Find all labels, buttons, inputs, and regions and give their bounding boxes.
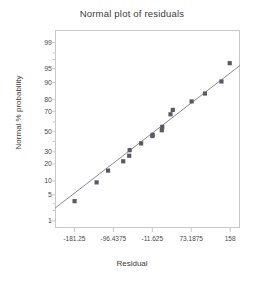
normal-probability-plot-figure: Normal plot of residuals 151020305070809… xyxy=(0,0,264,282)
y-tick-label: 50 xyxy=(34,128,52,135)
y-tick-label: 70 xyxy=(34,108,52,115)
y-tick-label: 95 xyxy=(34,65,52,72)
plot-area xyxy=(55,30,240,228)
y-tick-label: 5 xyxy=(34,191,52,198)
x-tick-label: 158 xyxy=(205,235,255,242)
y-tick-label: 10 xyxy=(34,177,52,184)
x-axis-tick-labels: -181.25-96.4375-11.62573.1875158 xyxy=(55,235,240,247)
y-tick-label: 80 xyxy=(34,96,52,103)
y-tick-label: 30 xyxy=(34,148,52,155)
y-axis-tick-labels: 15102030507080909599 xyxy=(30,30,52,228)
y-tick-label: 1 xyxy=(34,217,52,224)
y-tick-label: 20 xyxy=(34,160,52,167)
y-axis-title: Normal % probability xyxy=(14,58,23,168)
y-tick-label: 99 xyxy=(34,39,52,46)
x-axis-title: Residual xyxy=(0,259,264,268)
y-tick-label: 90 xyxy=(34,79,52,86)
chart-title: Normal plot of residuals xyxy=(0,8,264,19)
